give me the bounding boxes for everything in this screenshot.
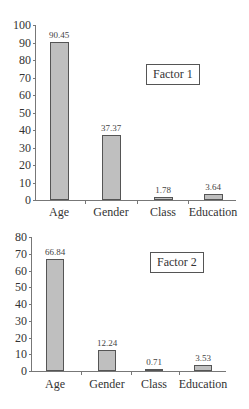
y-tick-label: 50 — [0, 281, 27, 293]
y-tick — [33, 130, 36, 131]
y-tick-label: 80 — [0, 231, 27, 243]
y-tick-label: 30 — [3, 142, 31, 154]
y-tick-label: 40 — [3, 124, 31, 136]
bar-gender — [102, 135, 121, 200]
y-tick — [33, 60, 36, 61]
y-tick — [29, 271, 32, 272]
y-tick — [33, 95, 36, 96]
y-tick — [29, 254, 32, 255]
x-tick — [81, 372, 82, 375]
y-tick — [33, 78, 36, 79]
y-tick — [29, 354, 32, 355]
y-tick-label: 0 — [0, 365, 27, 377]
bar-value-label: 90.45 — [39, 31, 79, 40]
y-tick-label: 30 — [0, 315, 27, 327]
y-tick — [33, 183, 36, 184]
x-tick — [188, 201, 189, 204]
y-tick-label: 0 — [3, 194, 31, 206]
bar-class — [145, 369, 163, 371]
y-tick-label: 20 — [3, 159, 31, 171]
y-tick-label: 100 — [3, 19, 31, 31]
y-tick — [33, 43, 36, 44]
x-axis — [35, 200, 236, 201]
bar-education — [204, 194, 223, 200]
y-tick-label: 10 — [0, 348, 27, 360]
y-tick — [29, 371, 32, 372]
y-tick — [33, 25, 36, 26]
x-category-label: Education — [173, 378, 233, 391]
bar-value-label: 3.53 — [183, 354, 223, 363]
y-tick — [33, 200, 36, 201]
x-category-label: Education — [183, 206, 243, 219]
y-tick-label: 10 — [3, 177, 31, 189]
bar-age — [50, 42, 69, 200]
bar-value-label: 66.84 — [35, 248, 75, 257]
legend-box: Factor 1 — [146, 64, 200, 85]
bar-value-label: 1.78 — [143, 186, 183, 195]
bar-value-label: 0.71 — [134, 358, 174, 367]
y-tick — [29, 304, 32, 305]
legend-box: Factor 2 — [150, 252, 204, 273]
bar-gender — [98, 350, 116, 371]
x-axis — [31, 371, 226, 372]
bar-class — [154, 197, 173, 200]
y-tick-label: 20 — [0, 332, 27, 344]
y-tick — [33, 165, 36, 166]
y-tick — [29, 237, 32, 238]
y-tick-label: 70 — [3, 72, 31, 84]
bar-age — [46, 259, 64, 371]
x-tick — [137, 201, 138, 204]
y-tick-label: 90 — [3, 37, 31, 49]
y-tick-label: 60 — [3, 89, 31, 101]
y-tick-label: 70 — [0, 248, 27, 260]
x-category-label: Age — [25, 378, 85, 391]
bar-value-label: 12.24 — [87, 339, 127, 348]
bar-value-label: 3.64 — [193, 183, 233, 192]
y-tick — [29, 338, 32, 339]
x-tick — [179, 372, 180, 375]
y-tick — [33, 148, 36, 149]
y-tick — [33, 113, 36, 114]
y-tick — [29, 287, 32, 288]
x-tick — [85, 201, 86, 204]
y-tick-label: 50 — [3, 107, 31, 119]
y-tick — [29, 321, 32, 322]
y-tick-label: 40 — [0, 298, 27, 310]
x-tick — [131, 372, 132, 375]
x-category-label: Age — [29, 206, 89, 219]
bar-education — [194, 365, 212, 371]
y-tick-label: 80 — [3, 54, 31, 66]
y-tick-label: 60 — [0, 265, 27, 277]
bar-value-label: 37.37 — [91, 124, 131, 133]
x-category-label: Gender — [81, 206, 141, 219]
